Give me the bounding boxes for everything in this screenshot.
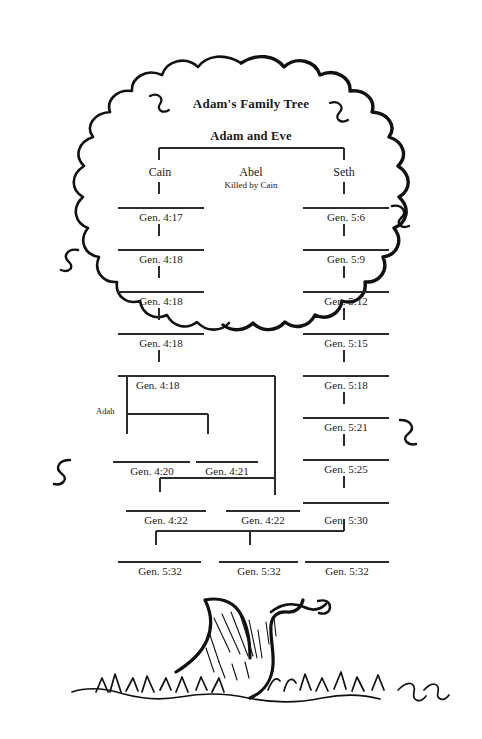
node-cain-gen-1: Gen. 4:17 <box>139 211 182 223</box>
family-tree-illustration: Adam's Family Tree Adam and Eve Cain Abe… <box>0 0 482 739</box>
node-gen-5-32-c: Gen. 5:32 <box>325 565 368 577</box>
node-seth-gen-2: Gen. 5:9 <box>327 253 365 265</box>
node-gen-4-20: Gen. 4:20 <box>130 465 173 477</box>
node-abel: Abel <box>239 165 262 180</box>
page-title: Adam's Family Tree <box>193 96 309 112</box>
root-node-adam-and-eve: Adam and Eve <box>210 129 292 144</box>
node-seth-gen-8: Gen. 5:30 <box>324 514 367 526</box>
node-cain-gen-3: Gen. 4:18 <box>139 295 182 307</box>
node-gen-4-22-b: Gen. 4:22 <box>241 514 284 526</box>
node-seth-gen-4: Gen. 5:15 <box>324 337 367 349</box>
node-adah: Adah <box>96 406 114 416</box>
node-seth-gen-6: Gen. 5:21 <box>324 421 367 433</box>
node-gen-5-32-b: Gen. 5:32 <box>237 565 280 577</box>
node-seth: Seth <box>333 165 354 180</box>
node-cain-gen-4: Gen. 4:18 <box>139 337 182 349</box>
node-abel-note: Killed by Cain <box>225 180 278 190</box>
node-gen-4-21: Gen. 4:21 <box>205 465 248 477</box>
node-cain: Cain <box>149 165 172 180</box>
node-lamech-gen-4-18: Gen. 4:18 <box>136 379 179 391</box>
node-gen-5-32-a: Gen. 5:32 <box>138 565 181 577</box>
node-seth-gen-1: Gen. 5:6 <box>327 211 365 223</box>
node-gen-4-22-a: Gen. 4:22 <box>144 514 187 526</box>
node-seth-gen-3: Gen. 5:12 <box>324 295 367 307</box>
node-seth-gen-5: Gen. 5:18 <box>324 379 367 391</box>
node-seth-gen-7: Gen. 5:25 <box>324 463 367 475</box>
node-cain-gen-2: Gen. 4:18 <box>139 253 182 265</box>
